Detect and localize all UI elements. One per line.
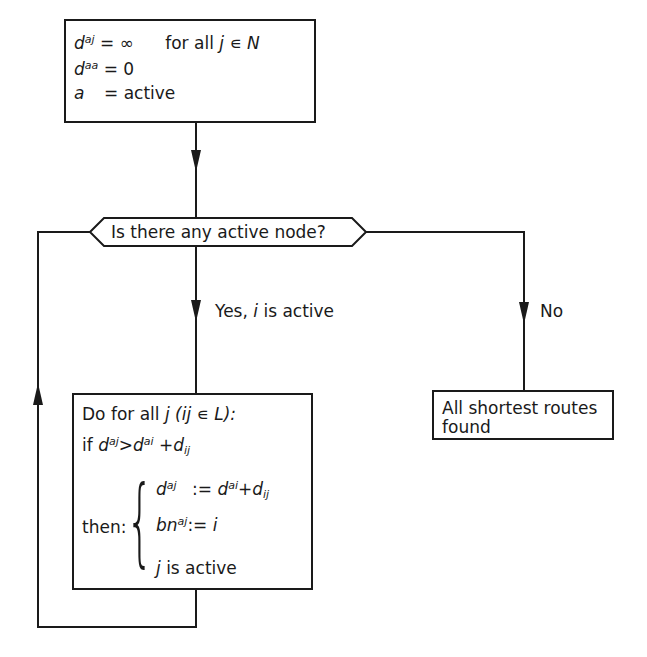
- then-label: then:: [82, 519, 126, 536]
- superscript: aj: [85, 33, 95, 46]
- relax-box: Do for all j (ij ∊ L): if daj>dai +dij t…: [72, 393, 313, 590]
- decision-label: Is there any active node?: [111, 224, 326, 241]
- var-a: a: [74, 85, 104, 102]
- init-line-1: daj = ∞ for all j ∊ N: [74, 35, 260, 52]
- superscript: ai: [228, 479, 238, 492]
- arc-condition: (ij ∊ L):: [175, 404, 236, 424]
- value-zero: = 0: [104, 59, 134, 79]
- left-brace: {: [126, 473, 153, 569]
- init-line-2: daa = 0: [74, 61, 134, 78]
- superscript: aj: [178, 515, 188, 528]
- var-d: d: [156, 479, 167, 499]
- var-d: d: [98, 435, 109, 455]
- var-d: d: [74, 33, 85, 53]
- end-line-2: found: [442, 419, 491, 436]
- no-branch-label: No: [540, 303, 563, 320]
- value-active: = active: [104, 83, 175, 103]
- var-bn: bn: [156, 515, 178, 535]
- end-box: All shortest routes found: [432, 390, 614, 440]
- var-d: d: [74, 59, 85, 79]
- superscript: aj: [109, 435, 119, 448]
- condition-text: for all: [165, 33, 214, 53]
- stmt-update-distance: daj := dai+dij: [156, 481, 269, 498]
- var-i: i: [213, 515, 218, 535]
- operator-plus: +: [159, 435, 173, 455]
- var-j: j: [219, 33, 224, 53]
- var-j: j: [156, 558, 161, 578]
- operator-plus: +: [238, 479, 252, 499]
- superscript: aa: [85, 59, 98, 72]
- set-N: N: [247, 33, 260, 53]
- arrow-up-icon: [33, 383, 43, 405]
- stmt-update-predecessor: bnaj:= i: [156, 517, 218, 534]
- if-keyword: if: [82, 435, 93, 455]
- var-j: j: [165, 404, 170, 424]
- superscript: aj: [167, 479, 177, 492]
- yes-text: Yes,: [215, 301, 248, 321]
- arrow-down-icon: [191, 300, 201, 322]
- edge-no: [366, 232, 524, 390]
- do-for-all-text: Do for all: [82, 404, 160, 424]
- arrow-down-icon: [519, 302, 529, 324]
- var-d: d: [217, 479, 228, 499]
- operator-gt: >: [119, 435, 133, 455]
- value-infinity: = ∞: [100, 33, 134, 53]
- var-d: d: [173, 435, 184, 455]
- relax-line-2: if daj>dai +dij: [82, 437, 190, 454]
- init-box: daj = ∞ for all j ∊ N daa = 0 a= active: [64, 19, 316, 123]
- superscript: ai: [144, 435, 154, 448]
- subscript: ij: [263, 488, 269, 501]
- is-active-text: is active: [166, 558, 237, 578]
- operator-assign: :=: [187, 515, 207, 535]
- element-of-symbol: ∊: [229, 33, 241, 53]
- var-i: i: [253, 301, 258, 321]
- subscript: ij: [184, 444, 190, 457]
- init-line-3: a= active: [74, 85, 175, 102]
- yes-branch-label: Yes, i is active: [215, 303, 334, 320]
- var-d: d: [133, 435, 144, 455]
- var-d: d: [252, 479, 263, 499]
- end-line-1: All shortest routes: [442, 400, 597, 417]
- stmt-mark-active: j is active: [156, 560, 237, 577]
- operator-assign: :=: [192, 479, 212, 499]
- arrow-down-icon: [191, 150, 201, 172]
- relax-line-1: Do for all j (ij ∊ L):: [82, 406, 236, 423]
- is-active-text: is active: [263, 301, 334, 321]
